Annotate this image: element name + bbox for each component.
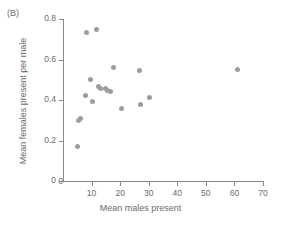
data-point xyxy=(83,93,88,98)
data-point xyxy=(84,30,89,35)
y-tick-label: 0.4 xyxy=(26,94,56,104)
y-axis-label: Mean females present per male xyxy=(18,26,28,176)
x-tick xyxy=(92,182,93,186)
x-tick xyxy=(206,182,207,186)
x-tick xyxy=(149,182,150,186)
plot-area xyxy=(63,19,263,181)
panel-label: (B) xyxy=(7,8,19,18)
y-tick-label: 0.6 xyxy=(26,54,56,64)
data-point xyxy=(138,102,143,107)
data-point xyxy=(90,99,95,104)
data-point xyxy=(78,116,83,121)
data-point xyxy=(98,86,103,91)
x-tick-label: 10 xyxy=(80,188,104,198)
x-tick-label: 70 xyxy=(251,188,275,198)
x-tick-label: 0 xyxy=(39,176,63,186)
x-tick-label: 50 xyxy=(194,188,218,198)
data-point xyxy=(235,67,240,72)
data-point xyxy=(75,144,80,149)
x-tick-label: 40 xyxy=(165,188,189,198)
scatter-plot-figure: (B) 00.20.40.60.8 010203040506070 Mean m… xyxy=(0,0,281,226)
y-tick-label: 0.2 xyxy=(26,135,56,145)
data-point xyxy=(88,77,93,82)
x-tick xyxy=(263,182,264,186)
x-tick-label: 20 xyxy=(108,188,132,198)
data-point xyxy=(147,95,152,100)
data-point xyxy=(119,106,124,111)
x-tick-label: 60 xyxy=(222,188,246,198)
data-point xyxy=(108,89,113,94)
x-tick xyxy=(120,182,121,186)
x-axis-label: Mean males present xyxy=(0,203,281,213)
x-tick xyxy=(234,182,235,186)
data-point xyxy=(94,27,99,32)
x-tick-label: 30 xyxy=(137,188,161,198)
data-point xyxy=(111,65,116,70)
data-point xyxy=(137,68,142,73)
y-tick-label: 0.8 xyxy=(26,13,56,23)
x-tick xyxy=(177,182,178,186)
